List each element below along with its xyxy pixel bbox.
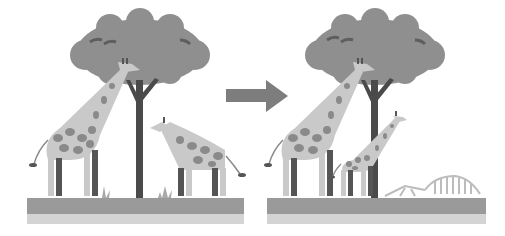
young-tall-giraffe [329, 111, 407, 196]
tree-canopy [305, 8, 445, 85]
ground [27, 198, 244, 224]
panel-before [0, 0, 250, 236]
ground [267, 198, 486, 224]
tall-giraffe [264, 58, 375, 196]
giraffe-skeleton [385, 176, 480, 196]
tree-canopy [70, 8, 210, 85]
tall-giraffe [29, 58, 140, 196]
short-giraffe [150, 117, 246, 196]
panel-after [255, 0, 505, 236]
tree-trunk [126, 78, 159, 200]
